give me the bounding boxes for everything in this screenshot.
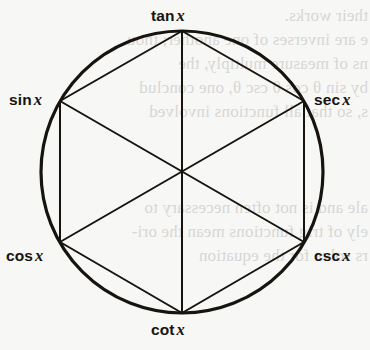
vertex-label-sec: secx — [314, 92, 351, 109]
vertex-label-csc: cscx — [314, 248, 351, 265]
vertex-label-cos-variable: x — [33, 246, 43, 265]
hexagon-edge-sin-tan — [60, 31, 182, 101]
trig-hexagon-figure — [0, 0, 370, 350]
vertex-label-cos: cosx — [6, 248, 43, 265]
vertex-label-tan-text: tan — [151, 7, 175, 24]
vertex-label-cot-text: cot — [151, 321, 175, 338]
vertex-label-csc-variable: x — [340, 246, 350, 265]
vertex-label-tan: tanx — [151, 8, 185, 25]
vertex-label-sec-variable: x — [340, 90, 350, 109]
vertex-label-cos-text: cos — [6, 247, 33, 264]
vertex-label-sin-text: sin — [9, 91, 32, 108]
vertex-label-sin-variable: x — [32, 90, 42, 109]
vertex-label-sec-text: sec — [314, 91, 340, 108]
hexagon-edge-tan-sec — [182, 31, 304, 101]
hexagon-diagonals — [60, 31, 304, 313]
vertex-label-cot-variable: x — [175, 320, 185, 339]
hexagon-edge-csc-cot — [182, 242, 304, 313]
vertex-label-csc-text: csc — [314, 247, 340, 264]
vertex-label-sin: sinx — [9, 92, 42, 109]
hexagon-edge-cot-cos — [60, 242, 182, 313]
vertex-label-cot: cotx — [151, 322, 185, 339]
vertex-label-tan-variable: x — [175, 6, 185, 25]
